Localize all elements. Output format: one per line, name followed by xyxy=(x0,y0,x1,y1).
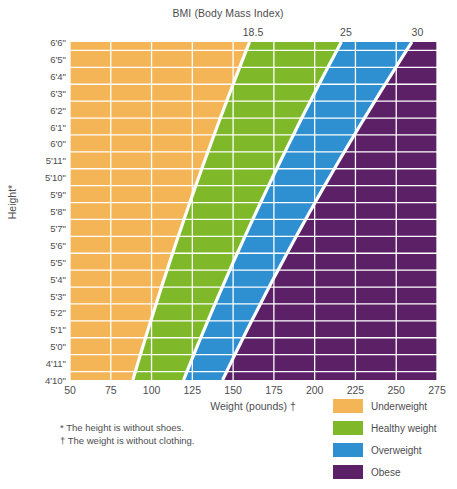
weight-tick-label: 150 xyxy=(224,384,242,396)
height-tick-label: 6'2" xyxy=(4,104,66,115)
height-tick-label: 6'4" xyxy=(4,70,66,81)
weight-tick-label: 125 xyxy=(184,384,202,396)
legend-swatch xyxy=(333,421,363,435)
weight-tick-label: 225 xyxy=(347,384,365,396)
legend-label: Overweight xyxy=(371,445,422,456)
chart-title: BMI (Body Mass Index) xyxy=(172,7,283,19)
height-tick-label: 6'1" xyxy=(4,121,66,132)
height-tick-label: 6'0" xyxy=(4,138,66,149)
height-axis-labels: 6'6"6'5"6'4"6'3"6'2"6'1"6'0"5'11"5'10"5'… xyxy=(0,0,66,489)
weight-tick-label: 100 xyxy=(143,384,161,396)
x-axis-title: Weight (pounds) † xyxy=(210,400,296,412)
height-tick-label: 5'3" xyxy=(4,290,66,301)
height-tick-label: 5'11" xyxy=(4,155,66,166)
height-tick-label: 5'6" xyxy=(4,239,66,250)
legend-swatch xyxy=(333,443,363,457)
weight-tick-label: 275 xyxy=(428,384,446,396)
legend-item: Underweight xyxy=(333,399,437,413)
plot-area xyxy=(70,42,437,380)
height-tick-label: 5'1" xyxy=(4,324,66,335)
legend-label: Obese xyxy=(371,467,400,478)
bmi-band-plot xyxy=(70,42,437,380)
legend-swatch xyxy=(333,399,363,413)
height-tick-label: 5'0" xyxy=(4,341,66,352)
bmi-chart: BMI (Body Mass Index) 18.52530 6'6"6'5"6… xyxy=(0,0,457,489)
bmi-tick-25: 25 xyxy=(340,26,352,38)
legend-swatch xyxy=(333,465,363,479)
weight-tick-label: 50 xyxy=(64,384,76,396)
height-tick-label: 5'2" xyxy=(4,307,66,318)
height-tick-label: 5'5" xyxy=(4,256,66,267)
legend-item: Overweight xyxy=(333,443,437,457)
legend-item: Healthy weight xyxy=(333,421,437,435)
footnote-height: * The height is without shoes. xyxy=(60,421,194,434)
weight-tick-label: 175 xyxy=(265,384,283,396)
footnote-weight: † The weight is without clothing. xyxy=(60,434,194,447)
legend: UnderweightHealthy weightOverweightObese xyxy=(333,399,437,487)
height-tick-label: 6'5" xyxy=(4,53,66,64)
height-tick-label: 4'10" xyxy=(4,375,66,386)
footnotes: * The height is without shoes. † The wei… xyxy=(60,421,194,447)
legend-label: Healthy weight xyxy=(371,423,437,434)
height-tick-label: 6'3" xyxy=(4,87,66,98)
height-tick-label: 4'11" xyxy=(4,358,66,369)
weight-tick-label: 75 xyxy=(105,384,117,396)
bmi-tick-18.5: 18.5 xyxy=(243,26,263,38)
weight-tick-label: 250 xyxy=(387,384,405,396)
height-tick-label: 5'4" xyxy=(4,273,66,284)
legend-label: Underweight xyxy=(371,401,427,412)
height-tick-label: 6'6" xyxy=(4,37,66,48)
y-axis-title: Height* xyxy=(6,172,18,232)
weight-tick-label: 200 xyxy=(306,384,324,396)
legend-item: Obese xyxy=(333,465,437,479)
bmi-tick-30: 30 xyxy=(412,26,424,38)
